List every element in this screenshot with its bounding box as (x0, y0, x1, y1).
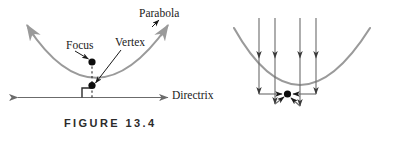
reflected-ray-diagonal-left (275, 97, 284, 104)
figure-page: Parabola Focus Vertex Directrix FIGURE 1… (0, 0, 396, 142)
parabola-left-arrow-tip (27, 25, 34, 36)
vertex-point (88, 82, 95, 89)
parabola-curve (27, 25, 168, 78)
label-parabola: Parabola (139, 8, 179, 20)
figure-13-4: Parabola Focus Vertex Directrix FIGURE 1… (0, 0, 222, 142)
reflected-ray-diagonal-right (291, 98, 300, 106)
focus-point (88, 58, 95, 65)
focus-point-reflector (284, 90, 291, 97)
focus-leader-line (75, 51, 89, 59)
vertex-leader-line (96, 50, 122, 83)
label-focus: Focus (66, 40, 93, 52)
figure-13-5: Focus FIGURE 13.5 (222, 0, 396, 142)
parabola-curve-reflector (234, 28, 370, 85)
label-directrix: Directrix (172, 90, 214, 102)
parabola-right-arrow-tip (161, 25, 168, 36)
figure-13-4-caption: FIGURE 13.4 (64, 118, 156, 129)
label-vertex: Vertex (115, 37, 145, 49)
parabola-leader-line (152, 20, 159, 27)
right-angle-mark (82, 88, 92, 98)
figure-13-5-graphic (222, 0, 396, 142)
